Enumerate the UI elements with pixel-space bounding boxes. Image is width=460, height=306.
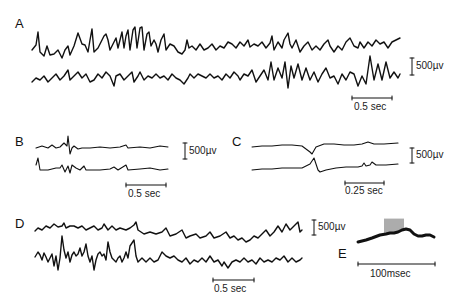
panel-label-b: B [15,134,24,149]
panel-label-d: D [15,216,24,231]
panel-c-voltage-cal: 500µv [416,149,443,160]
panel-b-trace-1 [36,136,168,154]
panel-d-time-cal: 0.5 sec [214,283,246,294]
calibration-bars [126,58,435,282]
panel-d-voltage-cal: 500µv [318,221,345,232]
panel-b-voltage-cal: 500µv [189,145,216,156]
panel-label-a: A [15,16,24,31]
panel-label-c: C [232,134,241,149]
panel-b-time-cal: 0.5 sec [128,188,160,199]
panel-a-time-cal: 0.5 sec [354,101,386,112]
panel-label-e: E [338,246,347,261]
panel-a-trace-1 [32,27,400,58]
panel-a-trace-2 [32,56,400,88]
panel-e-time-cal: 100msec [370,268,411,279]
panel-e-trace [358,229,434,242]
panel-d-trace-1 [35,222,302,242]
panel-c-trace-1 [252,142,398,154]
panel-c-time-cal: 0.25 sec [345,185,383,196]
panel-a-voltage-cal: 500µv [416,60,443,71]
eeg-figure [0,0,460,306]
panel-c-trace-2 [252,158,398,172]
panel-d-trace-2 [35,236,302,270]
panel-b-trace-2 [36,158,168,173]
